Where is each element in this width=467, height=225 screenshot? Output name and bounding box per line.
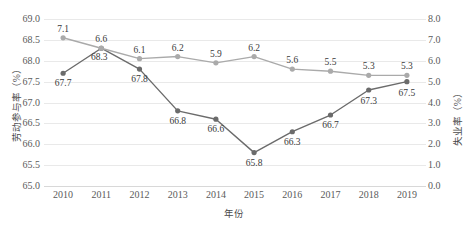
x-axis-title: 年份 — [0, 206, 467, 220]
data-point-marker — [61, 35, 66, 40]
data-point-label: 6.6 — [95, 35, 107, 45]
x-axis-tick: 2015 — [244, 190, 264, 200]
data-point-label: 7.1 — [57, 25, 69, 35]
left-y-axis-title: 劳动参与率（%） — [9, 63, 23, 143]
series-line — [63, 38, 407, 76]
data-point-label: 67.3 — [360, 97, 377, 107]
x-axis-tick: 2010 — [53, 190, 73, 200]
series-line — [63, 48, 407, 152]
data-point-marker — [252, 54, 257, 59]
data-point-label: 5.5 — [325, 58, 337, 68]
left-y-axis-tick: 65.0 — [23, 181, 41, 191]
left-y-axis-tick: 69.0 — [23, 14, 41, 24]
left-y-axis-tick: 68.0 — [23, 56, 41, 66]
x-axis-tick: 2011 — [91, 190, 111, 200]
data-point-marker — [175, 108, 180, 113]
data-point-label: 5.3 — [363, 62, 375, 72]
data-point-marker — [61, 71, 66, 76]
right-y-axis-tick: 8.0 — [428, 14, 441, 24]
right-y-axis-tick: 7.0 — [428, 35, 441, 45]
plot-area: 67.768.367.866.866.665.866.366.767.367.5… — [44, 19, 426, 186]
data-point-label: 67.7 — [55, 79, 72, 89]
left-y-axis-tick: 68.5 — [23, 35, 41, 45]
data-point-marker — [213, 60, 218, 65]
data-point-marker — [328, 69, 333, 74]
x-axis-tick-labels: 2010201120122013201420152016201720182019 — [44, 190, 426, 204]
right-y-axis-tick: 5.0 — [428, 77, 441, 87]
data-point-marker — [99, 46, 104, 51]
gridline — [44, 186, 426, 187]
left-y-axis-tick: 67.0 — [23, 98, 41, 108]
left-y-axis-tick: 66.0 — [23, 139, 41, 149]
x-axis-tick: 2017 — [321, 190, 341, 200]
left-y-axis-tick: 67.5 — [23, 77, 41, 87]
x-axis-tick: 2014 — [206, 190, 226, 200]
data-point-label: 6.2 — [248, 44, 260, 54]
data-point-label: 5.9 — [210, 50, 222, 60]
right-y-axis-tick: 4.0 — [428, 98, 441, 108]
right-y-axis-tick: 1.0 — [428, 160, 441, 170]
data-point-marker — [137, 67, 142, 72]
data-point-marker — [213, 117, 218, 122]
data-point-label: 65.8 — [246, 159, 263, 169]
data-point-label: 6.1 — [134, 46, 146, 56]
data-point-marker — [366, 73, 371, 78]
data-point-label: 6.2 — [172, 44, 184, 54]
right-y-axis-tick: 3.0 — [428, 118, 441, 128]
right-y-axis-title: 失业率（%） — [450, 81, 464, 153]
right-y-axis-tick: 6.0 — [428, 56, 441, 66]
x-axis-tick: 2013 — [168, 190, 188, 200]
data-point-label: 66.6 — [208, 125, 225, 135]
data-point-label: 66.7 — [322, 121, 339, 131]
left-y-axis-tick: 66.5 — [23, 118, 41, 128]
line-chart: 69.068.568.067.567.066.566.065.565.0 8.0… — [0, 0, 467, 225]
x-axis-tick: 2012 — [130, 190, 150, 200]
data-point-label: 68.3 — [91, 53, 108, 63]
data-point-label: 5.3 — [401, 62, 413, 72]
right-y-axis-tick: 0.0 — [428, 181, 441, 191]
data-point-marker — [137, 56, 142, 61]
data-point-marker — [404, 79, 409, 84]
data-point-label: 66.3 — [284, 138, 301, 148]
left-y-axis-tick: 65.5 — [23, 160, 41, 170]
data-point-marker — [252, 150, 257, 155]
x-axis-tick: 2016 — [282, 190, 302, 200]
data-point-marker — [290, 67, 295, 72]
data-point-label: 5.6 — [286, 56, 298, 66]
data-point-marker — [328, 112, 333, 117]
x-axis-tick: 2019 — [397, 190, 417, 200]
data-point-label: 66.8 — [169, 117, 186, 127]
data-point-marker — [404, 73, 409, 78]
data-point-marker — [366, 87, 371, 92]
right-y-axis-tick: 2.0 — [428, 139, 441, 149]
data-point-label: 67.5 — [399, 89, 416, 99]
data-point-label: 67.8 — [131, 75, 148, 85]
x-axis-tick: 2018 — [359, 190, 379, 200]
data-point-marker — [175, 54, 180, 59]
data-point-marker — [290, 129, 295, 134]
